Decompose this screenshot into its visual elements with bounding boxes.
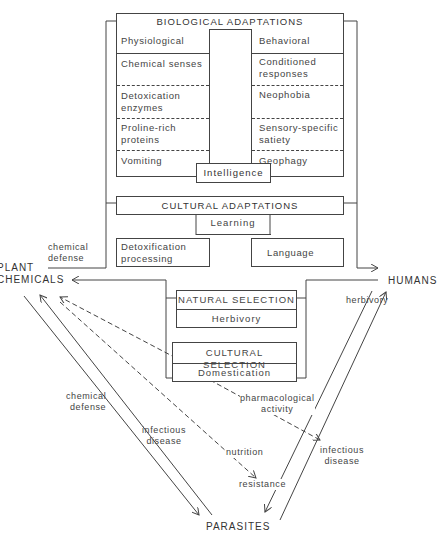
cultural-selection-box: CULTURAL SELECTION Domestication [172, 342, 297, 382]
cultural-adaptations-header: CULTURAL ADAPTATIONS [116, 196, 344, 215]
learning-label: Learning [196, 217, 270, 229]
learning-divider [196, 234, 271, 235]
label-line: disease [142, 436, 186, 447]
herbivory-edge-label: herbivory [346, 295, 388, 306]
detoxification-processing-label: Detoxification processing [121, 241, 205, 265]
cultural-adaptations-title: CULTURAL ADAPTATIONS [162, 200, 299, 211]
label-line: infectious [320, 445, 364, 456]
behavioral-column: Behavioral Conditioned responses Neophob… [251, 29, 344, 177]
adaptations-to-humans-line [343, 21, 378, 268]
physiological-column: Physiological Chemical senses Detoxicati… [116, 29, 210, 177]
herbivory-label: Herbivory [177, 313, 296, 325]
intelligence-box: Intelligence [196, 163, 271, 183]
label-line: chemical [48, 242, 88, 253]
nutrition-label: nutrition [226, 447, 263, 458]
label-line: defense [48, 253, 88, 264]
infectious-disease-right-label: infectious disease [320, 445, 364, 467]
label-line: disease [320, 456, 364, 467]
middle-column [209, 29, 252, 164]
detoxification-processing-box: Detoxification processing [116, 238, 210, 267]
proline-rich-proteins: Proline-rich proteins [121, 122, 191, 146]
sensory-specific-satiety: Sensory-specific satiety [259, 122, 345, 146]
chemical-defense-line [48, 21, 116, 268]
intelligence-label: Intelligence [203, 167, 263, 178]
coevolution-diagram: BIOLOGICAL ADAPTATIONS Physiological Che… [0, 0, 441, 540]
natural-selection-box: NATURAL SELECTION Herbivory [176, 290, 297, 328]
biological-adaptations-header: BIOLOGICAL ADAPTATIONS [116, 13, 344, 30]
label-line: activity [240, 404, 315, 415]
vomiting: Vomiting [121, 155, 162, 167]
infectious-disease-left-label: infectious disease [142, 425, 186, 447]
chemicals-label: CHEMICALS [0, 274, 64, 286]
chemical-defense-top-label: chemical defense [48, 242, 88, 264]
natural-selection-title: NATURAL SELECTION [177, 294, 296, 306]
language-label: Language [267, 247, 314, 259]
physiological-header: Physiological [121, 35, 184, 47]
label-line: defense [58, 402, 106, 413]
detoxication-enzymes: Detoxication enzymes [121, 90, 201, 114]
language-box: Language [251, 238, 344, 267]
parasites-node: PARASITES [206, 521, 270, 533]
humans-node: HUMANS [388, 275, 437, 287]
chemical-defense-left-label: chemical defense [58, 391, 106, 413]
plant-chemicals-node: PLANT CHEMICALS [0, 262, 64, 286]
domestication-label: Domestication [173, 367, 296, 379]
pharmacological-activity-label: pharmacological activity [240, 393, 315, 415]
label-line: pharmacological [240, 393, 315, 404]
behavioral-header: Behavioral [259, 35, 310, 47]
chemical-senses: Chemical senses [121, 58, 202, 70]
resistance-label: resistance [239, 479, 286, 490]
label-line: infectious [142, 425, 186, 436]
biological-adaptations-title: BIOLOGICAL ADAPTATIONS [157, 16, 304, 27]
neophobia: Neophobia [259, 89, 310, 101]
label-line: chemical [58, 391, 106, 402]
conditioned-responses: Conditioned responses [259, 56, 329, 80]
